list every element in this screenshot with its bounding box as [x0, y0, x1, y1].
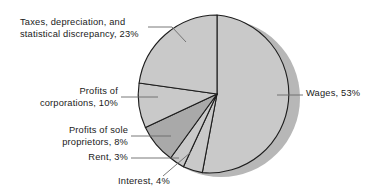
slice-label-taxes-depreciation-statistical-discrepancy: Taxes, depreciation, and statistical dis…	[20, 17, 139, 40]
slice-label-interest: Interest, 4%	[118, 176, 170, 188]
slice-label-rent: Rent, 3%	[70, 152, 128, 164]
slice-label-profits-of-sole-proprietors: Profits of sole proprietors, 8%	[42, 125, 128, 148]
slice-label-profits-of-corporations: Profits of corporations, 10%	[34, 86, 118, 109]
slice-label-wages: Wages, 53%	[306, 88, 360, 100]
pie-chart-figure: Taxes, depreciation, and statistical dis…	[0, 0, 391, 195]
